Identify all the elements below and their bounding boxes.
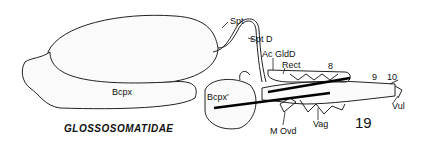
figure-title: GLOSSOSOMATIDAE	[64, 123, 174, 134]
label-bcpx-prime: Bcpx'	[207, 93, 229, 102]
label-segment-9: 9	[372, 73, 377, 82]
label-ac-gld-d: Ac GldD	[262, 50, 296, 59]
label-rect: Rect	[282, 61, 301, 70]
label-spt-d: Spt D	[250, 35, 273, 44]
label-segment-8: 8	[328, 62, 333, 71]
label-vul: Vul	[392, 102, 405, 111]
figure-number: 19	[355, 114, 372, 131]
label-spt: Spt	[230, 17, 244, 26]
label-bcpx: Bcpx	[112, 88, 132, 97]
label-vag: Vag	[313, 120, 328, 129]
label-m-ovd: M Ovd	[270, 127, 297, 136]
anatomical-figure: Spt Spt D Ac GldD Rect 8 9 10 Vul Vag M …	[0, 0, 423, 145]
label-segment-10: 10	[387, 73, 397, 82]
